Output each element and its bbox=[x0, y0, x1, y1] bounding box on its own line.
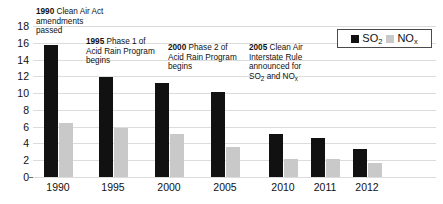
gridline bbox=[33, 127, 436, 128]
bar-nox-2005 bbox=[226, 147, 240, 177]
bar-nox-2011 bbox=[326, 159, 340, 177]
y-axis-tick-label: 8 bbox=[23, 105, 29, 116]
legend-label-nox: NOx bbox=[397, 33, 417, 45]
bar-nox-2010 bbox=[284, 159, 298, 177]
bar-chart: 181614121086420 SO2 NOx 1990199520002005… bbox=[0, 0, 443, 204]
bar-nox-1990 bbox=[59, 123, 73, 177]
annotation-year: 1990 bbox=[36, 7, 54, 16]
x-axis-label-2005: 2005 bbox=[200, 182, 250, 193]
y-axis-tick-label: 2 bbox=[23, 155, 29, 166]
bar-so2-2000 bbox=[155, 83, 169, 177]
bar-nox-2012 bbox=[368, 163, 382, 177]
x-axis-label-1995: 1995 bbox=[88, 182, 138, 193]
bar-so2-2010 bbox=[269, 134, 283, 177]
annotation-year: 2000 bbox=[168, 43, 186, 52]
legend-item-so2: SO2 bbox=[351, 33, 382, 45]
y-axis: 181614121086420 bbox=[0, 26, 29, 177]
bar-so2-2012 bbox=[353, 149, 367, 177]
bar-so2-2011 bbox=[311, 138, 325, 177]
annotation-year: 1995 bbox=[86, 37, 104, 46]
annotation-1995: 1995 Phase 1 ofAcid Rain Programbegins bbox=[86, 37, 170, 66]
annotation-2005: 2005 Clean AirInterstate Ruleannounced f… bbox=[249, 43, 325, 81]
legend-swatch-so2 bbox=[351, 35, 359, 43]
bar-so2-1990 bbox=[44, 45, 58, 177]
y-axis-tick-label: 4 bbox=[23, 138, 29, 149]
bar-nox-1995 bbox=[114, 128, 128, 177]
annotation-1990: 1990 Clean Air Actamendmentspassed bbox=[36, 7, 120, 36]
y-axis-tick-label: 16 bbox=[17, 38, 29, 49]
x-axis-label-2012: 2012 bbox=[342, 182, 392, 193]
x-axis-label-2000: 2000 bbox=[144, 182, 194, 193]
gridline bbox=[33, 143, 436, 144]
legend: SO2 NOx bbox=[337, 29, 432, 48]
legend-label-so2: SO2 bbox=[362, 33, 382, 45]
legend-swatch-nox bbox=[386, 35, 394, 43]
bar-nox-2000 bbox=[170, 134, 184, 177]
annotation-2000: 2000 Phase 2 ofAcid Rain Programbegins bbox=[168, 43, 250, 72]
gridline bbox=[33, 93, 436, 94]
annotation-year: 2005 bbox=[249, 43, 267, 52]
gridline bbox=[33, 110, 436, 111]
bar-so2-1995 bbox=[99, 77, 113, 177]
y-axis-tick-label: 12 bbox=[17, 71, 29, 82]
legend-item-nox: NOx bbox=[386, 33, 417, 45]
y-axis-tick-label: 10 bbox=[17, 88, 29, 99]
y-axis-tick-label: 18 bbox=[17, 21, 29, 32]
y-axis-tick-label: 14 bbox=[17, 55, 29, 66]
gridline bbox=[33, 76, 436, 77]
y-axis-tick-label: 6 bbox=[23, 122, 29, 133]
bar-so2-2005 bbox=[211, 92, 225, 177]
x-axis-label-1990: 1990 bbox=[33, 182, 83, 193]
gridline bbox=[33, 177, 436, 178]
